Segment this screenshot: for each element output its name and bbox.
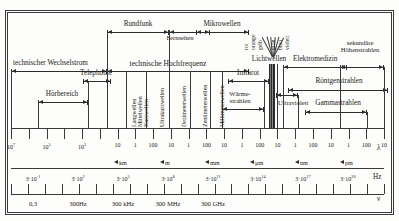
vertical-band-label-ultrakurzwellen: Ultrakurzwellen xyxy=(159,88,165,127)
wavelength-tick-label: 100 xyxy=(149,142,158,148)
wavelength-tick xyxy=(11,128,12,139)
wavelength-tick xyxy=(331,128,332,139)
wavelength-unit-pm: pm xyxy=(340,159,353,166)
wavelength-tick-label: 10 xyxy=(168,142,174,148)
divider-zentimeter-end xyxy=(210,71,211,128)
frequency-axis-top-line xyxy=(11,168,384,169)
frequency-named-label: 300Hz xyxy=(69,200,87,207)
frequency-tick xyxy=(367,184,368,194)
frequency-tick xyxy=(231,184,232,194)
wavelength-tick xyxy=(242,128,243,139)
frequency-tick xyxy=(316,184,317,194)
vertical-band-label-kurzwellen: Kurzwellen xyxy=(143,99,149,127)
wavelength-tick-label: 107 xyxy=(7,142,15,150)
band-span-hoerbereich xyxy=(38,100,88,105)
wavelength-tick xyxy=(118,128,119,139)
band-label-waermestrahlen-line2: strahlen xyxy=(230,98,251,105)
frequency-exponent-label: 3·1017 xyxy=(295,174,310,182)
band-span-gammastrahlen xyxy=(305,110,367,115)
divider-gamma-end xyxy=(367,112,368,128)
wavelength-unit-um: µm xyxy=(250,159,263,166)
frequency-tick xyxy=(299,184,300,194)
wavelength-tick xyxy=(171,128,172,139)
frequency-tick xyxy=(79,184,80,194)
band-label-technische-hochfrequenz: technische Hochfrequenz xyxy=(130,60,207,68)
wavelength-tick xyxy=(82,128,83,139)
vertical-band-label-millimeterwellen: Millimeterwellen xyxy=(219,85,225,127)
wavelength-tick-label: 1 xyxy=(187,142,190,148)
wavelength-tick xyxy=(135,128,136,139)
light-color-label-blau: blau xyxy=(277,40,283,50)
wavelength-axis-symbol: λ xyxy=(377,145,381,152)
wavelength-tick xyxy=(189,128,190,139)
frequency-tick xyxy=(130,184,131,194)
frequency-named-label: 300 kHz xyxy=(112,200,135,207)
band-label-hoerbereich: Hörbereich xyxy=(46,91,78,98)
frequency-tick xyxy=(282,184,283,194)
frequency-exponent-label: 3·1011 xyxy=(205,174,220,182)
frequency-tick xyxy=(147,184,148,194)
divider-ukw-end xyxy=(169,32,170,128)
wavelength-tick xyxy=(313,128,314,139)
wavelength-tick-label: 10 xyxy=(381,142,387,148)
frequency-tick xyxy=(350,184,351,194)
divider-sekundaer-end xyxy=(384,67,385,128)
visible-light-subline-2 xyxy=(272,64,273,128)
frequency-tick xyxy=(198,184,199,194)
wavelength-tick xyxy=(47,128,48,139)
band-label-infrarot: Infrarot xyxy=(237,70,259,77)
wavelength-tick-label: 100 xyxy=(309,142,318,148)
band-label-fernsehen: Fernsehen xyxy=(166,35,193,42)
unit-text-mm: mm xyxy=(210,159,220,166)
wavelength-axis-line xyxy=(11,128,384,129)
divider-sekundaer-start xyxy=(340,67,341,128)
wavelength-unit-nm: nm xyxy=(295,159,308,166)
wavelength-tick-label: 100 xyxy=(202,142,211,148)
wavelength-tick xyxy=(29,128,30,139)
wavelength-tick-label: 1 xyxy=(294,142,297,148)
spectrum-figure: Rundfunk Fernsehen Mikrowellen rot orang… xyxy=(0,0,399,221)
wavelength-tick-label: 10 xyxy=(221,142,227,148)
band-label-lichtwellen: Lichtwellen xyxy=(252,56,286,63)
frequency-exponent-label: 3·105 xyxy=(116,174,129,182)
band-span-ultraviolett xyxy=(276,93,298,98)
band-span-technische-hochfrequenz xyxy=(107,69,249,74)
frequency-axis-symbol: ν xyxy=(377,196,380,203)
frequency-exponent-label: 3·108 xyxy=(161,174,174,182)
frequency-axis-bottom-line xyxy=(11,194,384,195)
frequency-tick xyxy=(181,184,182,194)
wavelength-tick-label: 105 xyxy=(42,142,50,150)
wavelength-tick-label: 100 xyxy=(362,142,371,148)
wavelength-tick-label: 1 xyxy=(134,142,137,148)
divider-hoerbereich-start xyxy=(38,100,39,128)
visible-light-edge xyxy=(277,64,278,128)
divider-wechselstrom-start xyxy=(11,71,12,128)
divider-elektromedizin-start xyxy=(283,67,284,128)
wavelength-tick-label: 10 xyxy=(115,142,121,148)
band-span-roentgenstrahlen xyxy=(288,88,388,93)
vertical-band-label-dezimeterwellen: Dezimeterwellen xyxy=(181,86,187,127)
vertical-band-label-zentimeterwellen: Zentimeterwellen xyxy=(202,85,208,127)
frequency-exponent-label: 3·102 xyxy=(71,174,84,182)
wavelength-tick-label: 100 xyxy=(255,142,264,148)
frequency-tick xyxy=(164,184,165,194)
frequency-named-label: 300 MHz xyxy=(155,200,180,207)
wavelength-tick xyxy=(277,128,278,139)
divider-hoerbereich-end xyxy=(88,81,89,128)
unit-text-km: km xyxy=(119,159,127,166)
band-label-gammastrahlen: Gammastrahlen xyxy=(315,100,361,107)
divider-langwellen-start xyxy=(126,71,127,128)
frequency-tick xyxy=(62,184,63,194)
divider-ultraviolett-end xyxy=(298,95,299,128)
wavelength-unit-km: km xyxy=(114,159,127,166)
wavelength-tick xyxy=(206,128,207,139)
band-label-sekundaere-hoehenstrahlen-line2: Höhenstrahlen xyxy=(341,47,379,54)
wavelength-tick xyxy=(64,128,65,139)
light-color-label-rot: rot xyxy=(243,44,249,50)
frequency-tick xyxy=(333,184,334,194)
frequency-tick xyxy=(11,184,12,194)
wavelength-tick xyxy=(295,128,296,139)
wavelength-tick xyxy=(384,128,385,139)
frequency-tick xyxy=(215,184,216,194)
frequency-tick xyxy=(113,184,114,194)
